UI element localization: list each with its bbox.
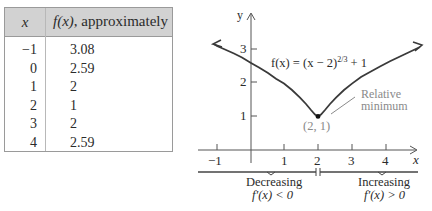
x-tick-1: 1 (281, 153, 288, 169)
annotation-minimum: minimum (361, 99, 408, 114)
x-tick-3: 3 (348, 153, 355, 169)
y-tick-3: 3 (240, 41, 247, 57)
y-tick-2: 2 (240, 74, 247, 90)
x-axis-label: x (413, 152, 419, 168)
decreasing-condition: f′(x) < 0 (252, 188, 293, 203)
x-tick-4: 4 (382, 153, 389, 169)
function-label: f(x) = (x − 2)2/3 + 1 (271, 55, 367, 71)
y-axis-label: y (237, 8, 243, 23)
increasing-condition: f′(x) > 0 (364, 188, 405, 203)
point-label: (2, 1) (303, 119, 330, 134)
x-tick-neg1: −1 (208, 153, 222, 169)
y-tick-1: 1 (240, 108, 247, 124)
x-tick-2: 2 (314, 153, 321, 169)
curve-left-arrow-icon (213, 40, 222, 47)
